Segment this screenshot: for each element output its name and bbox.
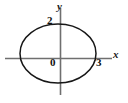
x-axis-label: x — [113, 49, 119, 60]
graph-canvas — [0, 0, 128, 103]
y-intercept-tick-label: 2 — [47, 15, 53, 26]
x-intercept-tick-label: 3 — [96, 57, 102, 68]
ellipse-curve — [20, 24, 96, 83]
y-axis-label: y — [57, 1, 62, 12]
origin-label: 0 — [50, 57, 56, 68]
ellipse-graph-figure: y x 2 0 3 — [0, 0, 128, 103]
